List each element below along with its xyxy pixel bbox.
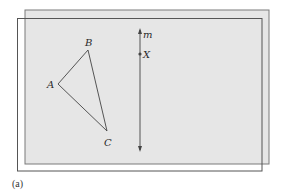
label-c: C xyxy=(104,137,112,148)
point-x xyxy=(138,52,141,55)
label-a: A xyxy=(46,79,54,90)
reflection-diagram: A B C m X (a) xyxy=(0,0,283,191)
label-x: X xyxy=(142,49,151,60)
figure-caption: (a) xyxy=(12,178,23,190)
label-b: B xyxy=(84,37,92,48)
label-m: m xyxy=(143,29,152,40)
